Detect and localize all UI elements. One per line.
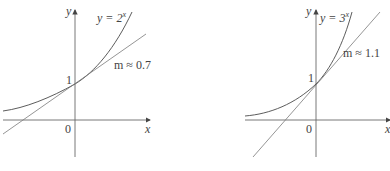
curve-label: y = 2x [96, 10, 126, 25]
y-intercept-label: 1 [308, 71, 314, 85]
origin-label: 0 [65, 122, 71, 136]
slope-label: m ≈ 1.1 [343, 46, 380, 60]
figure: y x 1 0 y = 2x m ≈ 0.7 y x 1 0 y = 3x m … [0, 0, 390, 171]
y-axis-label: y [65, 4, 72, 18]
slope-label: m ≈ 0.7 [114, 58, 151, 72]
x-axis-label: x [144, 122, 151, 136]
tangent-line-3x [253, 12, 380, 157]
y-axis-label: y [305, 4, 312, 18]
curve-3x [245, 12, 352, 116]
curve-2x [3, 12, 132, 111]
tangent-line-2x [3, 34, 146, 134]
plot-3x: y x 1 0 y = 3x m ≈ 1.1 [245, 4, 390, 157]
curve-label: y = 3x [319, 10, 349, 25]
origin-label: 0 [306, 122, 312, 136]
y-intercept-label: 1 [66, 73, 72, 87]
x-axis-label: x [384, 122, 390, 136]
plot-2x: y x 1 0 y = 2x m ≈ 0.7 [3, 4, 151, 157]
